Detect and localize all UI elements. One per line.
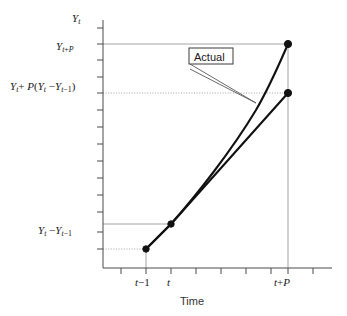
marker-t-plus-p-actual <box>284 40 291 47</box>
reference-lines <box>103 44 288 268</box>
x-axis <box>103 268 332 274</box>
y-tick-label-naive-forecast: Yt+ P(Yt −Yt−1) <box>10 81 75 94</box>
y-tick-label-first-difference: Yt −Yt−1 <box>38 225 72 238</box>
data-markers <box>143 40 292 252</box>
callout-label: Actual <box>194 52 225 63</box>
marker-t-plus-p-forecast <box>284 89 291 96</box>
series-actual-curve <box>146 44 288 249</box>
figure-root: Yt Yt+P Yt+ P(Yt −Yt−1) Yt −Yt−1 t−1 t t… <box>0 0 347 316</box>
y-axis-title: Yt <box>72 13 80 26</box>
y-tick-label-yt-plus-p: Yt+P <box>56 41 74 54</box>
y-axis-title-text: Yt <box>72 12 80 24</box>
callout-leader-upper <box>190 64 256 103</box>
marker-t <box>168 221 174 227</box>
marker-t-minus-1 <box>143 246 149 252</box>
x-tick-label-t-minus-1: t−1 <box>135 277 150 288</box>
x-tick-label-t-plus-p: t+P <box>274 277 290 288</box>
series-naive-forecast-line <box>146 93 288 249</box>
data-series <box>146 44 288 249</box>
x-tick-label-t: t <box>167 277 170 288</box>
chart-canvas <box>0 0 347 316</box>
callout-leader-lower <box>190 69 256 103</box>
y-axis <box>97 20 103 268</box>
x-axis-title: Time <box>180 296 204 307</box>
